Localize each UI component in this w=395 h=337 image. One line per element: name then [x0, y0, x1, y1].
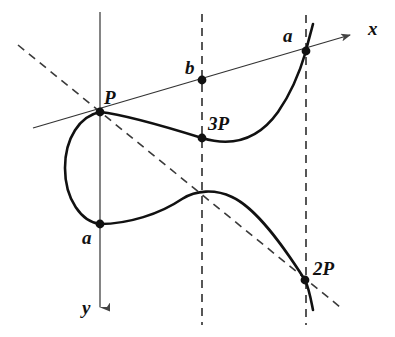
curve-upper-branch [100, 24, 313, 142]
label-x-axis: x [368, 19, 378, 38]
figure-canvas [0, 0, 395, 337]
label-2P: 2P [313, 259, 334, 278]
label-a-left: a [82, 228, 92, 247]
label-b: b [185, 58, 195, 77]
curve-lower-branch [100, 192, 313, 310]
label-3P: 3P [208, 114, 229, 133]
point-dot-a-left[interactable] [96, 220, 105, 229]
point-dot-2P[interactable] [301, 276, 310, 285]
point-dot-a-right[interactable] [302, 47, 311, 56]
label-a-right: a [283, 26, 293, 45]
label-P: P [104, 88, 116, 107]
elliptic-curve-figure: P a b 3P a 2P x y [0, 0, 395, 337]
point-dot-3P[interactable] [198, 134, 207, 143]
point-dot-b[interactable] [198, 76, 207, 85]
point-dot-P[interactable] [96, 108, 105, 117]
label-y-axis: y [82, 298, 90, 317]
curve-oval-branch [65, 112, 100, 224]
